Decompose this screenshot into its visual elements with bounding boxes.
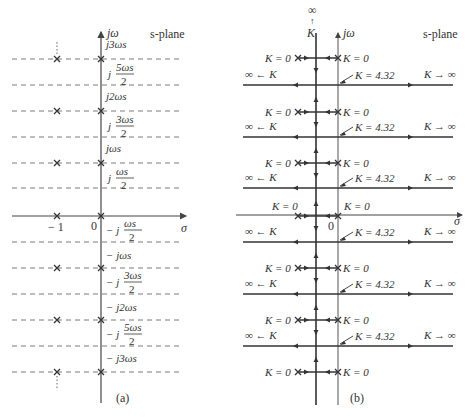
left-infinity-label: ∞ ← K <box>245 277 277 289</box>
direction-arrow-icon <box>325 266 330 271</box>
direction-arrow-icon <box>314 173 319 178</box>
frequency-label-denominator: 2 <box>129 283 135 295</box>
crossing-leader-line <box>340 232 353 240</box>
direction-arrow-icon <box>304 370 309 375</box>
direction-arrow-icon <box>293 83 298 88</box>
pole-gain-label-right: K = 0 <box>342 366 369 378</box>
s-plane-label: s-plane <box>150 27 185 41</box>
direction-arrow-icon <box>304 214 309 219</box>
frequency-label-prefix: j <box>106 68 111 80</box>
right-infinity-label: K → ∞ <box>423 120 456 132</box>
pole-gain-label-left: K = 0 <box>264 366 291 378</box>
direction-arrow-icon <box>408 186 413 191</box>
frequency-label-numerator: 5ωs <box>124 321 142 333</box>
frequency-label-denominator: 2 <box>129 231 135 243</box>
panel-a-sampled-pole-pattern: jω s-plane σ 0 − 1 j3ωsj5ωs2j2ωsj3ωs2jωs… <box>12 26 188 405</box>
panel-b-root-locus: K = 0K = 0K = 0K = 0K = 0K = 0K = 0K = 0… <box>236 3 462 405</box>
frequency-label-prefix: j <box>106 120 111 132</box>
left-infinity-label: ∞ ← K <box>245 329 277 341</box>
frequency-label-prefix: − j <box>106 276 119 288</box>
frequency-label-numerator: ωs <box>116 165 128 177</box>
sigma-axis-label-b: σ <box>454 214 461 228</box>
jw-axis-label-b: jω <box>341 26 355 40</box>
s-plane-label-b: s-plane <box>423 27 458 41</box>
frequency-label: − j2ωs <box>106 301 137 313</box>
crossing-gain-label: K = 4.32 <box>354 69 395 81</box>
direction-arrow-icon <box>408 135 413 140</box>
caption-b: (b) <box>350 391 364 405</box>
pole-gain-label-right: K = 0 <box>342 106 369 118</box>
right-infinity-label: K → ∞ <box>423 171 456 183</box>
frequency-label-numerator: 3ωs <box>115 113 134 125</box>
pole-gain-label-left: K = 0 <box>264 157 291 169</box>
frequency-label: j2ωs <box>104 90 127 102</box>
right-infinity-label: K → ∞ <box>423 225 456 237</box>
pole-minus-one-label: − 1 <box>48 220 64 234</box>
direction-arrow-icon <box>304 110 309 115</box>
direction-arrow-icon <box>314 201 319 206</box>
pole-gain-label-right: K = 0 <box>343 200 370 212</box>
frequency-labels: j3ωsj5ωs2j2ωsj3ωs2jωsjωs2− jωs2− jωs− j3… <box>104 38 142 364</box>
top-K-label: K <box>306 26 316 40</box>
top-infinity-symbol: ∞ <box>308 3 317 17</box>
direction-arrow-icon <box>293 344 298 349</box>
direction-arrow-icon <box>314 253 319 258</box>
direction-arrow-icon <box>314 122 319 127</box>
frequency-label: j3ωs <box>104 38 127 50</box>
crossing-gain-label: K = 4.32 <box>354 330 395 342</box>
direction-arrow-icon <box>325 161 330 166</box>
direction-arrow-icon <box>293 186 298 191</box>
direction-arrow-icon <box>408 83 413 88</box>
crossing-gain-label: K = 4.32 <box>354 278 395 290</box>
crossing-leader-line <box>340 336 353 344</box>
pole-gain-label-right: K = 0 <box>342 262 369 274</box>
frequency-label: − jωs <box>106 249 131 261</box>
crossing-leader-line <box>340 127 353 135</box>
crossing-gain-label: K = 4.32 <box>354 172 395 184</box>
frequency-label-numerator: 5ωs <box>116 61 134 73</box>
left-infinity-label: ∞ ← K <box>245 68 277 80</box>
direction-arrow-icon <box>325 56 330 61</box>
right-infinity-label: K → ∞ <box>423 277 456 289</box>
direction-arrow-icon <box>314 357 319 362</box>
direction-arrow-icon <box>314 330 319 335</box>
frequency-label-denominator: 2 <box>121 127 127 139</box>
frequency-label: − j3ωs <box>106 352 137 364</box>
direction-arrow-icon <box>408 292 413 297</box>
frequency-label-denominator: 2 <box>121 75 127 87</box>
pole-gain-label-left: K = 0 <box>264 314 291 326</box>
direction-arrow-icon <box>293 292 298 297</box>
direction-arrow-icon <box>408 240 413 245</box>
caption-a: (a) <box>116 391 129 405</box>
top-up-arrow: ↑ <box>310 16 315 26</box>
pole-gain-label-left: K = 0 <box>271 200 298 212</box>
right-infinity-label: K → ∞ <box>423 68 456 80</box>
pole-gain-label-left: K = 0 <box>264 262 291 274</box>
frequency-label-prefix: − j <box>106 224 119 236</box>
pole-gain-label-right: K = 0 <box>342 52 369 64</box>
origin-label: 0 <box>91 219 97 233</box>
direction-arrow-icon <box>325 370 330 375</box>
direction-arrow-icon <box>304 56 309 61</box>
pole-gain-label-left: K = 0 <box>264 106 291 118</box>
frequency-label: jωs <box>104 142 121 154</box>
direction-arrow-icon <box>304 161 309 166</box>
direction-arrow-icon <box>293 135 298 140</box>
direction-arrow-icon <box>325 214 330 219</box>
frequency-label-denominator: 2 <box>121 179 127 191</box>
crossing-gain-label: K = 4.32 <box>354 226 395 238</box>
direction-arrow-icon <box>314 97 319 102</box>
direction-arrow-icon <box>325 110 330 115</box>
right-infinity-label: K → ∞ <box>423 329 456 341</box>
crossing-gain-label: K = 4.32 <box>354 121 395 133</box>
frequency-label-numerator: ωs <box>124 217 136 229</box>
direction-arrow-icon <box>293 240 298 245</box>
pole-gain-label-right: K = 0 <box>342 314 369 326</box>
direction-arrow-icon <box>304 266 309 271</box>
pole-gain-label-left: K = 0 <box>264 52 291 64</box>
crossing-leader-line <box>340 75 353 83</box>
pole-gain-label-right: K = 0 <box>342 157 369 169</box>
left-infinity-label: ∞ ← K <box>245 171 277 183</box>
direction-arrow-icon <box>408 344 413 349</box>
frequency-label-prefix: j <box>106 172 111 184</box>
